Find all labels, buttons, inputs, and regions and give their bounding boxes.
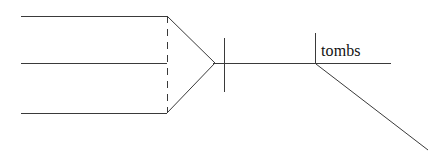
tombs-label: tombs <box>321 43 361 59</box>
descending-branch <box>316 64 428 150</box>
diagram-canvas: tombs <box>0 0 445 161</box>
diagram-vector-layer <box>0 0 445 161</box>
upper-converging-diagonal <box>167 16 215 63</box>
input-lines-group <box>21 16 167 113</box>
lower-converging-diagonal <box>167 63 215 113</box>
converging-arrow-group <box>167 16 215 113</box>
